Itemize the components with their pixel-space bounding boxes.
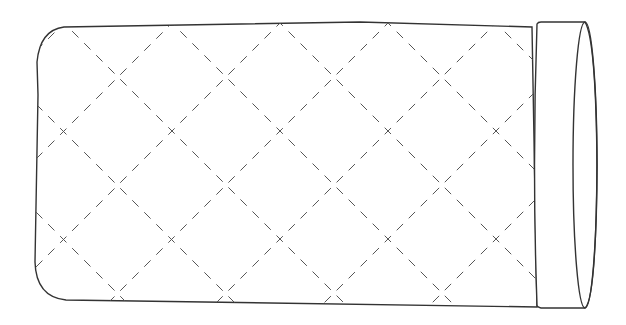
mitt-body-outline xyxy=(35,22,537,307)
cuff-outline xyxy=(535,22,598,308)
mitt-drawing xyxy=(0,0,626,325)
mitt-body xyxy=(35,22,537,307)
mitt-cuff xyxy=(535,22,598,308)
